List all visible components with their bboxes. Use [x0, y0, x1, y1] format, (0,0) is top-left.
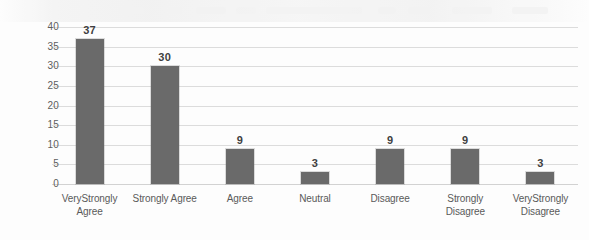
bar-value-label: 3	[503, 157, 578, 169]
bar[interactable]	[526, 172, 554, 184]
bar[interactable]	[151, 66, 179, 184]
x-axis-label: VeryStronglyDisagree	[503, 192, 578, 218]
x-axis-label: Disagree	[353, 192, 428, 218]
x-axis-labels: VeryStronglyAgreeStrongly AgreeAgreeNeut…	[52, 192, 578, 218]
bar[interactable]	[451, 149, 479, 184]
bar-chart: 4035302520151050 373093993 VeryStronglyA…	[0, 0, 589, 240]
bar-value-label: 37	[52, 24, 127, 36]
bar-series: 373093993	[52, 27, 578, 184]
x-axis-label: StronglyDisagree	[428, 192, 503, 218]
bar[interactable]	[376, 149, 404, 184]
bar-value-label: 3	[277, 157, 352, 169]
bar[interactable]	[301, 172, 329, 184]
bar-slot: 3	[503, 27, 578, 184]
bar-slot: 3	[277, 27, 352, 184]
scan-artifact	[0, 0, 589, 22]
x-axis-label: Neutral	[277, 192, 352, 218]
gridline	[52, 184, 578, 185]
x-axis-label: VeryStronglyAgree	[52, 192, 127, 218]
bar-slot: 30	[127, 27, 202, 184]
bar-slot: 37	[52, 27, 127, 184]
bar-value-label: 9	[353, 134, 428, 146]
bar-slot: 9	[353, 27, 428, 184]
bar[interactable]	[76, 39, 104, 184]
bar-value-label: 9	[428, 134, 503, 146]
bar-slot: 9	[428, 27, 503, 184]
x-axis-label: Strongly Agree	[127, 192, 202, 218]
plot-area: 4035302520151050 373093993	[52, 27, 578, 184]
bar-slot: 9	[202, 27, 277, 184]
x-axis-label: Agree	[202, 192, 277, 218]
bar[interactable]	[226, 149, 254, 184]
bar-value-label: 30	[127, 51, 202, 63]
bar-value-label: 9	[202, 134, 277, 146]
